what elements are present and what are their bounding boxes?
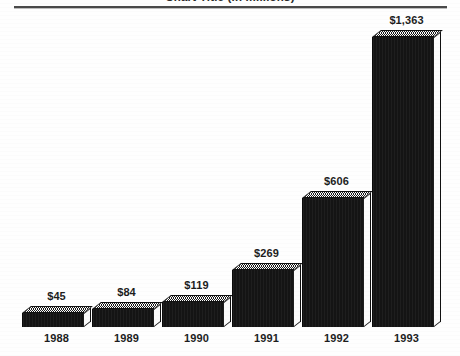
bar-front-face (22, 313, 84, 327)
bar-side-face (364, 193, 371, 327)
bar-value-label: $1,363 (372, 14, 441, 26)
bar-side-face (294, 265, 301, 327)
bar-1990 (162, 295, 231, 327)
bar-1992 (302, 191, 371, 327)
bar-top-face (372, 30, 443, 37)
bar-top-face (302, 191, 373, 198)
bar-category-label: 1989 (92, 332, 161, 344)
bar-category-label: 1988 (22, 332, 91, 344)
bar-front-face (232, 270, 294, 327)
bar-1989 (92, 302, 161, 327)
bar-top-face (162, 295, 233, 302)
bar-1988 (22, 306, 91, 327)
bar-top-face (232, 263, 303, 270)
bar-category-label: 1991 (232, 332, 301, 344)
plot-area: $451988$841989$1191990$2691991$6061992$1… (0, 0, 460, 356)
bar-front-face (92, 309, 154, 327)
bar-category-label: 1993 (372, 332, 441, 344)
bar-value-label: $84 (92, 286, 161, 298)
bar-category-label: 1992 (302, 332, 371, 344)
bar-value-label: $45 (22, 290, 91, 302)
bar-front-face (372, 37, 434, 327)
bar-category-label: 1990 (162, 332, 231, 344)
bar-side-face (434, 32, 441, 327)
bar-value-label: $606 (302, 175, 371, 187)
bar-front-face (162, 302, 224, 327)
bar-value-label: $119 (162, 279, 231, 291)
bar-top-face (92, 302, 163, 309)
bar-1991 (232, 263, 301, 327)
bar-value-label: $269 (232, 247, 301, 259)
bar-chart: Chart Title (in millions) $451988$841989… (0, 0, 460, 356)
bar-top-face (22, 306, 93, 313)
bar-front-face (302, 198, 364, 327)
bar-1993 (372, 30, 441, 327)
